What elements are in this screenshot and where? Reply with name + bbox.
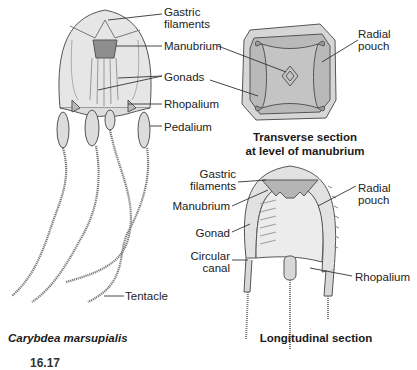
label-rhopalium: Rhopalium: [164, 98, 219, 110]
label-gastric-filaments-longitudinal: Gastric filaments: [180, 168, 236, 192]
caption-transverse-section: Transverse section at level of manubrium: [240, 130, 370, 158]
label-manubrium-longitudinal: Manubrium: [170, 200, 230, 212]
caption-line: at level of manubrium: [240, 144, 370, 158]
label-line: filaments: [180, 180, 236, 192]
caption-longitudinal-section: Longitudinal section: [246, 331, 386, 345]
label-tentacle: Tentacle: [125, 290, 168, 302]
label-circular-canal: Circular canal: [170, 250, 230, 274]
label-rhopalium-longitudinal: Rhopalium: [355, 271, 410, 283]
longitudinal-section-illustration: [244, 166, 339, 350]
label-line: filaments: [164, 18, 210, 30]
caption-line: Transverse section: [240, 130, 370, 144]
label-line: pouch: [358, 194, 391, 206]
label-line: pouch: [358, 40, 391, 52]
figure-number: 16.17: [30, 356, 60, 370]
label-gonad-longitudinal: Gonad: [170, 227, 230, 239]
label-line: Radial: [358, 182, 391, 194]
label-radial-pouch-longitudinal: Radial pouch: [358, 182, 391, 206]
label-line: Gastric: [164, 6, 210, 18]
whole-jellyfish-illustration: [12, 10, 151, 302]
label-pedalium: Pedalium: [164, 121, 212, 133]
label-gastric-filaments: Gastric filaments: [164, 6, 210, 30]
label-line: Gastric: [180, 168, 236, 180]
label-radial-pouch-transverse: Radial pouch: [358, 28, 391, 52]
label-line: Circular: [170, 250, 230, 262]
label-line: canal: [170, 262, 230, 274]
label-gonads: Gonads: [164, 71, 204, 83]
label-manubrium: Manubrium: [164, 40, 222, 52]
caption-species: Carybdea marsupialis: [8, 331, 128, 345]
label-line: Radial: [358, 28, 391, 40]
transverse-section-illustration: [242, 24, 336, 120]
